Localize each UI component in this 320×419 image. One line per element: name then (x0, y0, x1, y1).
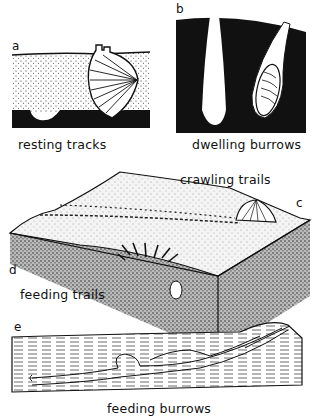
panel-e-letter: e (14, 320, 21, 334)
panel-b-caption: dwelling burrows (192, 137, 301, 152)
burrowing-shell-icon (170, 281, 182, 299)
panel-c-letter: c (296, 196, 303, 210)
panel-b-letter: b (176, 2, 184, 16)
trace-fossil-diagram (0, 0, 320, 419)
panel-b-dwelling-burrows (176, 16, 306, 133)
panel-a-caption: resting tracks (18, 137, 106, 152)
panel-d-letter: d (9, 263, 17, 277)
panel-e-caption: feeding burrows (107, 401, 211, 416)
panel-c-caption: crawling trails (180, 172, 271, 187)
panel-a-letter: a (12, 39, 19, 53)
panel-e-feeding-burrows (12, 323, 302, 392)
panel-a-resting-tracks (12, 45, 150, 128)
panel-d-caption: feeding trails (20, 287, 105, 302)
